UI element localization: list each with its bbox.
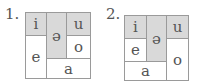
cell-e: e bbox=[124, 38, 147, 62]
diagram-2-number: 2. bbox=[106, 5, 120, 23]
cell-i: i bbox=[25, 12, 47, 36]
cell-a: a bbox=[124, 61, 167, 81]
cell-o: o bbox=[166, 38, 189, 81]
vowel-chart-2: i ə u e o a bbox=[124, 15, 189, 81]
cell-schwa: ə bbox=[146, 15, 167, 62]
diagram-1-number: 1. bbox=[5, 5, 19, 23]
cell-u: u bbox=[66, 12, 91, 36]
cell-o: o bbox=[66, 35, 91, 59]
cell-schwa: ə bbox=[46, 12, 67, 59]
cell-u: u bbox=[166, 15, 189, 39]
cell-e: e bbox=[25, 35, 47, 79]
vowel-chart-1: i ə u e o a bbox=[25, 12, 91, 79]
cell-i: i bbox=[124, 15, 147, 39]
cell-a: a bbox=[46, 58, 91, 79]
